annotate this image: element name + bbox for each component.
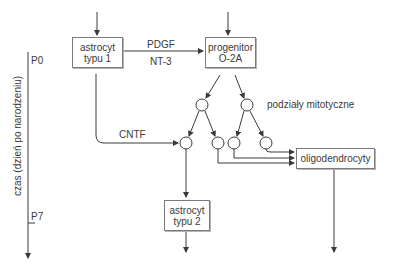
progenitor-to-right-circle-arrow	[235, 75, 244, 98]
split-arrow-1	[189, 111, 199, 136]
label-mitotic-divisions: podziały mitotyczne	[267, 99, 354, 110]
cell-circle-bottom-4	[260, 137, 272, 149]
label-pdgf: PDGF	[147, 39, 175, 50]
cell-circle-top-left	[196, 99, 208, 111]
split-arrow-3	[237, 111, 244, 136]
node-astrocyte-type1: astrocyt typu 1	[72, 37, 123, 68]
node-astrocyte-type2-line2: typu 2	[173, 216, 200, 227]
node-oligodendrocytes-label: oligodendrocyty	[300, 153, 370, 164]
node-progenitor-o2a: progenitor O-2A	[205, 37, 256, 68]
oligo-arrow-1	[218, 149, 294, 163]
node-astrocyte-type1-line2: typu 1	[84, 53, 111, 64]
label-nt3: NT-3	[150, 56, 172, 67]
timeline-p7: P7	[31, 211, 43, 222]
split-arrow-2	[205, 111, 215, 136]
progenitor-to-left-circle-arrow	[206, 75, 220, 98]
label-cntf: CNTF	[119, 129, 146, 140]
node-progenitor-line1: progenitor	[208, 42, 253, 53]
cell-circle-top-right	[241, 99, 253, 111]
node-astrocyte-type2: astrocyt typu 2	[164, 200, 210, 231]
node-progenitor-line2: O-2A	[219, 53, 242, 64]
oligo-arrow-3	[266, 149, 294, 152]
node-astrocyte-type1-line1: astrocyt	[80, 42, 115, 53]
timeline-p0: P0	[31, 55, 43, 66]
node-oligodendrocytes: oligodendrocyty	[296, 148, 375, 169]
timeline-axis-label: czas (dzień po narodzeniu)	[12, 76, 23, 196]
split-arrow-4	[250, 111, 263, 136]
oligo-arrow-2	[234, 149, 294, 158]
cell-circle-bottom-3	[228, 137, 240, 149]
node-astrocyte-type2-line1: astrocyt	[169, 205, 204, 216]
cell-circle-bottom-2	[212, 137, 224, 149]
cell-circle-bottom-1	[180, 137, 192, 149]
